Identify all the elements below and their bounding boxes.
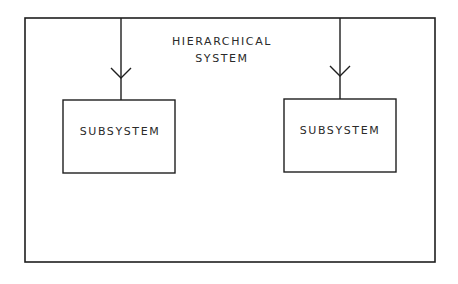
system-title-line-2: SYSTEM xyxy=(195,52,248,65)
system-title-line-1: HIERARCHICAL xyxy=(172,35,272,48)
hierarchical-system-diagram: HIERARCHICAL SYSTEM SUBSYSTEM SUBSYSTEM xyxy=(0,0,458,284)
left-connector xyxy=(111,18,131,100)
subsystem-label: SUBSYSTEM xyxy=(80,125,161,138)
subsystem-left: SUBSYSTEM xyxy=(63,100,175,173)
subsystem-right: SUBSYSTEM xyxy=(284,99,396,172)
right-connector xyxy=(330,18,350,99)
subsystem-label: SUBSYSTEM xyxy=(300,124,381,137)
